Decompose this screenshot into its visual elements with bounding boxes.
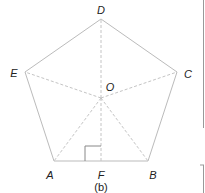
dashed-radii xyxy=(25,19,177,161)
segment-OB xyxy=(101,98,148,161)
label-A: A xyxy=(45,169,53,181)
segment-OA xyxy=(54,98,101,161)
label-O: O xyxy=(106,81,115,93)
figure-caption: (b) xyxy=(94,181,107,193)
label-D: D xyxy=(97,4,105,16)
label-E: E xyxy=(10,67,18,79)
segment-OE xyxy=(25,72,101,98)
pentagon-diagram: D E C O A F B (b) xyxy=(0,0,205,193)
right-angle-marker xyxy=(85,146,101,161)
label-C: C xyxy=(184,68,192,80)
label-B: B xyxy=(149,169,156,181)
label-F: F xyxy=(98,169,106,181)
